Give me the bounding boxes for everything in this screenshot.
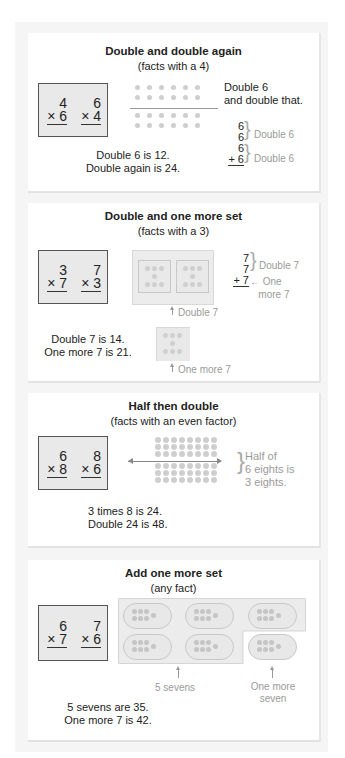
dot xyxy=(171,444,177,450)
dot xyxy=(257,640,262,645)
dot xyxy=(211,437,217,443)
dot xyxy=(159,266,164,271)
dot xyxy=(132,647,137,652)
brace-icon: } xyxy=(244,122,251,137)
dot xyxy=(263,609,268,614)
dot xyxy=(183,85,188,90)
dot xyxy=(138,616,143,621)
strategy-note: Half of6 eights is3 eights. xyxy=(245,450,295,489)
dot xyxy=(203,470,209,476)
dot xyxy=(195,477,201,483)
dot xyxy=(155,470,161,476)
brace-icon: } xyxy=(250,253,257,268)
dot xyxy=(163,470,169,476)
card-title: Double and one more set xyxy=(28,210,319,222)
arrow-label: One more 7 xyxy=(178,363,231,376)
dot xyxy=(135,123,140,128)
card-double-double-again: Double and double again (facts with a 4)… xyxy=(28,33,321,193)
dot xyxy=(187,437,193,443)
arrow-up-icon xyxy=(272,668,273,678)
dot xyxy=(147,85,152,90)
dot xyxy=(152,274,157,279)
dot xyxy=(171,463,177,469)
dot xyxy=(194,616,199,621)
seven-group xyxy=(248,634,297,660)
dot xyxy=(171,123,176,128)
dot xyxy=(147,113,152,118)
fact-1: 3× 7 xyxy=(45,264,67,292)
dot xyxy=(257,647,262,652)
summary-text: 3 times 8 is 24.Double 24 is 48. xyxy=(78,505,188,531)
brace-icon: } xyxy=(237,453,245,468)
card-double-one-more-set: Double and one more set (facts with a 3)… xyxy=(28,203,321,383)
dot xyxy=(155,477,161,483)
dot xyxy=(206,640,211,645)
dot xyxy=(132,609,137,614)
dot xyxy=(163,463,169,469)
dot xyxy=(138,647,143,652)
dot xyxy=(155,437,161,443)
die-seven xyxy=(176,260,209,293)
dot xyxy=(151,644,156,649)
dot xyxy=(194,640,199,645)
dot xyxy=(195,470,201,476)
dot xyxy=(276,644,281,649)
dot xyxy=(206,616,211,621)
dot xyxy=(177,349,182,354)
card-title: Double and double again xyxy=(28,45,319,57)
dot xyxy=(203,437,209,443)
dot xyxy=(211,451,217,457)
arrow-right-icon xyxy=(217,458,222,464)
dot xyxy=(145,282,150,287)
double-dice-group xyxy=(132,250,214,305)
dot xyxy=(263,640,268,645)
dot xyxy=(144,647,149,652)
fact-2: 6× 4 xyxy=(79,97,101,125)
dot xyxy=(171,85,176,90)
dot xyxy=(177,333,182,338)
dot xyxy=(159,95,164,100)
card-add-one-more-set: Add one more set (any fact) 6× 7 7× 6 5 … xyxy=(28,560,321,742)
dot xyxy=(195,463,201,469)
fact-2: 7× 6 xyxy=(79,620,101,648)
dot xyxy=(269,616,274,621)
dot xyxy=(206,609,211,614)
seven-group xyxy=(123,603,172,629)
brace-icon: } xyxy=(244,145,251,160)
dot xyxy=(211,444,217,450)
dot xyxy=(155,444,161,450)
dot xyxy=(135,95,140,100)
dot xyxy=(200,640,205,645)
dot xyxy=(183,266,188,271)
dot xyxy=(263,616,268,621)
die-seven xyxy=(138,260,171,293)
dot xyxy=(144,640,149,645)
dot xyxy=(159,85,164,90)
seven-group xyxy=(185,634,234,660)
dot xyxy=(187,444,193,450)
dot xyxy=(263,647,268,652)
dot xyxy=(195,95,200,100)
card-title: Add one more set xyxy=(28,567,319,579)
dot xyxy=(147,123,152,128)
dot xyxy=(194,609,199,614)
dot xyxy=(155,451,161,457)
dot xyxy=(170,333,175,338)
fact-box: 6× 8 8× 6 xyxy=(38,436,108,490)
dot xyxy=(147,95,152,100)
summary-text: 5 sevens are 35.One more 7 is 42. xyxy=(58,701,158,727)
fact-2: 7× 3 xyxy=(79,264,101,292)
dot xyxy=(179,451,185,457)
dot xyxy=(187,451,193,457)
card-subtitle: (facts with a 3) xyxy=(28,225,319,237)
arrow-label: 5 sevens xyxy=(155,681,195,694)
dot xyxy=(197,266,202,271)
summary-text: Double 7 is 14.One more 7 is 21. xyxy=(38,333,138,359)
seven-group xyxy=(123,634,172,660)
arrow-label: Double 7 xyxy=(178,306,218,319)
dot xyxy=(163,349,168,354)
card-subtitle: (facts with an even factor) xyxy=(28,415,319,427)
dot xyxy=(179,444,185,450)
dot xyxy=(171,113,176,118)
dot xyxy=(138,609,143,614)
